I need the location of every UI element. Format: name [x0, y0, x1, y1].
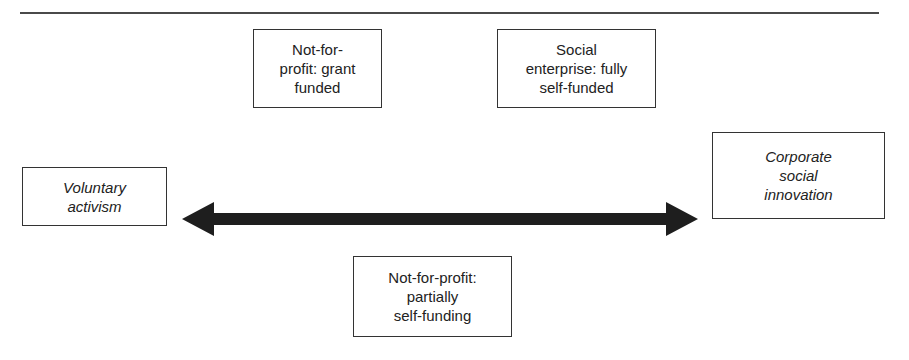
double-headed-arrow-icon — [0, 0, 909, 360]
